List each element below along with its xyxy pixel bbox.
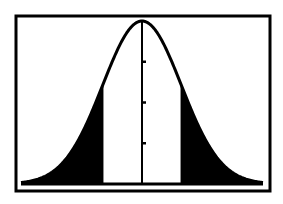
left-tail-shaded-region [21, 85, 103, 184]
right-tail-shaded-region [181, 85, 263, 184]
normal-distribution-chart [0, 0, 283, 204]
